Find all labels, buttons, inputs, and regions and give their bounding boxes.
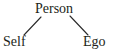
edge-person-to-ego	[70, 16, 88, 35]
node-label-self: Self	[3, 35, 26, 49]
node-label-ego: Ego	[83, 35, 106, 49]
tree-diagram: Person Self Ego	[0, 0, 114, 54]
node-label-person: Person	[35, 2, 73, 16]
edge-person-to-self	[24, 17, 41, 35]
